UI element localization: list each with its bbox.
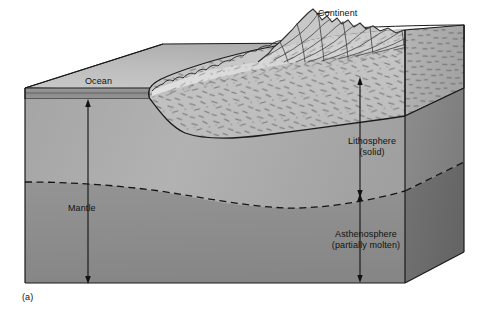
label-mantle: Mantle (68, 203, 96, 214)
block-diagram-illustration (0, 0, 487, 315)
label-asthenosphere-line2: (partially molten) (312, 240, 420, 251)
label-continent: Continent (318, 8, 357, 19)
label-asthenosphere-line1: Asthenosphere (312, 229, 420, 240)
label-lithosphere: Lithosphere (solid) (326, 136, 418, 157)
label-lithosphere-line1: Lithosphere (326, 136, 418, 147)
geological-block-diagram: Continent Ocean Lithosphere (solid) Asth… (0, 0, 487, 315)
figure-panel-label: (a) (22, 292, 33, 303)
label-lithosphere-line2: (solid) (326, 147, 418, 158)
label-ocean: Ocean (85, 76, 112, 87)
ocean-water-layer (25, 88, 150, 99)
label-asthenosphere: Asthenosphere (partially molten) (312, 229, 420, 250)
